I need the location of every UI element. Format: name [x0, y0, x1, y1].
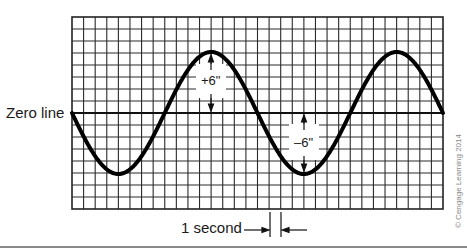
one-second-markers [244, 212, 307, 237]
zero-line-label: Zero line [6, 104, 64, 121]
time-scale-label: 1 second [181, 219, 242, 236]
bottom-rule [0, 246, 467, 248]
positive-amplitude-label: +6" [200, 73, 221, 88]
negative-amplitude-label: –6" [293, 135, 314, 150]
copyright-notice: © Cengage Learning 2014 [454, 134, 463, 228]
sine-wave-diagram [0, 0, 467, 252]
